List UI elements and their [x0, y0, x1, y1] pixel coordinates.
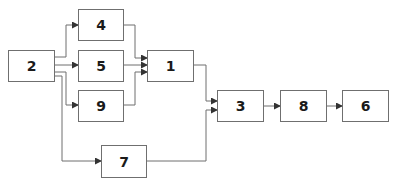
node-2: 2 [8, 50, 55, 82]
node-1: 1 [147, 50, 194, 82]
node-9: 9 [78, 90, 124, 122]
node-4: 4 [78, 9, 124, 41]
node-6: 6 [342, 90, 389, 122]
edge-4-1 [124, 25, 147, 58]
edge-1-3 [194, 65, 217, 101]
connectors [0, 0, 396, 185]
flow-diagram: 2 4 5 9 1 7 3 8 6 [0, 0, 396, 185]
node-3: 3 [217, 90, 264, 122]
edge-7-3 [147, 110, 217, 161]
node-5: 5 [78, 50, 124, 82]
edge-2-4 [55, 25, 78, 57]
edge-9-1 [124, 72, 147, 105]
edge-2-9 [55, 72, 78, 105]
node-7: 7 [101, 145, 147, 178]
node-8: 8 [280, 90, 327, 122]
